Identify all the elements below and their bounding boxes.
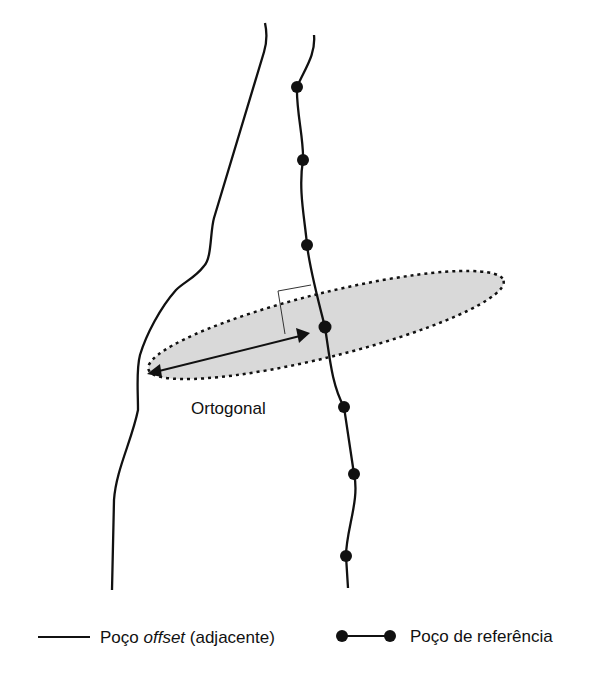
well-diagram: Ortogonal Poço offset (adjacente) Poço d…	[0, 0, 604, 674]
marker-dot	[297, 154, 309, 166]
marker-dot	[319, 321, 332, 334]
marker-dot	[340, 550, 352, 562]
legend-offset-label: Poço offset (adjacente)	[100, 628, 275, 647]
marker-dot	[348, 468, 360, 480]
marker-dot	[338, 401, 350, 413]
legend: Poço offset (adjacente) Poço de referênc…	[38, 627, 553, 647]
marker-dot	[291, 81, 303, 93]
legend-reference-icon	[336, 630, 396, 642]
legend-reference-label: Poço de referência	[410, 627, 553, 646]
offset-well-line	[112, 23, 266, 590]
ortogonal-label: Ortogonal	[191, 399, 266, 418]
marker-dot	[301, 239, 313, 251]
